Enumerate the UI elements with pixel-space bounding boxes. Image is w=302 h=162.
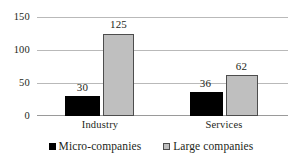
bar-services-micro-companies [190,92,223,116]
legend-label-micro-companies: Micro-companies [59,140,142,152]
chart-legend: Micro-companies Large companies [0,140,302,152]
y-axis-tick-label-50: 50 [0,78,30,89]
bar-chart: 150 100 50 0 30 125 36 62 Industry Servi… [0,0,302,162]
bar-services-large-companies [226,75,258,116]
gridline-100 [37,50,288,51]
x-axis-category-label-services: Services [184,119,264,131]
y-axis-tick-label-100: 100 [0,45,30,56]
bar-industry-large-companies [103,34,134,116]
y-axis-tick-label-0: 0 [0,111,30,122]
legend-swatch-icon-large-companies [163,143,170,150]
legend-item-micro-companies: Micro-companies [49,140,142,152]
bar-value-services-large-companies: 62 [225,61,258,72]
legend-item-large-companies: Large companies [163,140,253,152]
bar-value-industry-large-companies: 125 [101,19,136,30]
bar-industry-micro-companies [65,96,100,116]
x-axis-category-label-industry: Industry [60,119,140,131]
legend-label-large-companies: Large companies [173,140,253,152]
legend-swatch-icon-micro-companies [49,143,56,150]
y-axis-tick-label-150: 150 [0,12,30,23]
bar-value-services-micro-companies: 36 [189,78,222,89]
gridline-150 [37,17,288,18]
bar-value-industry-micro-companies: 30 [65,82,100,93]
